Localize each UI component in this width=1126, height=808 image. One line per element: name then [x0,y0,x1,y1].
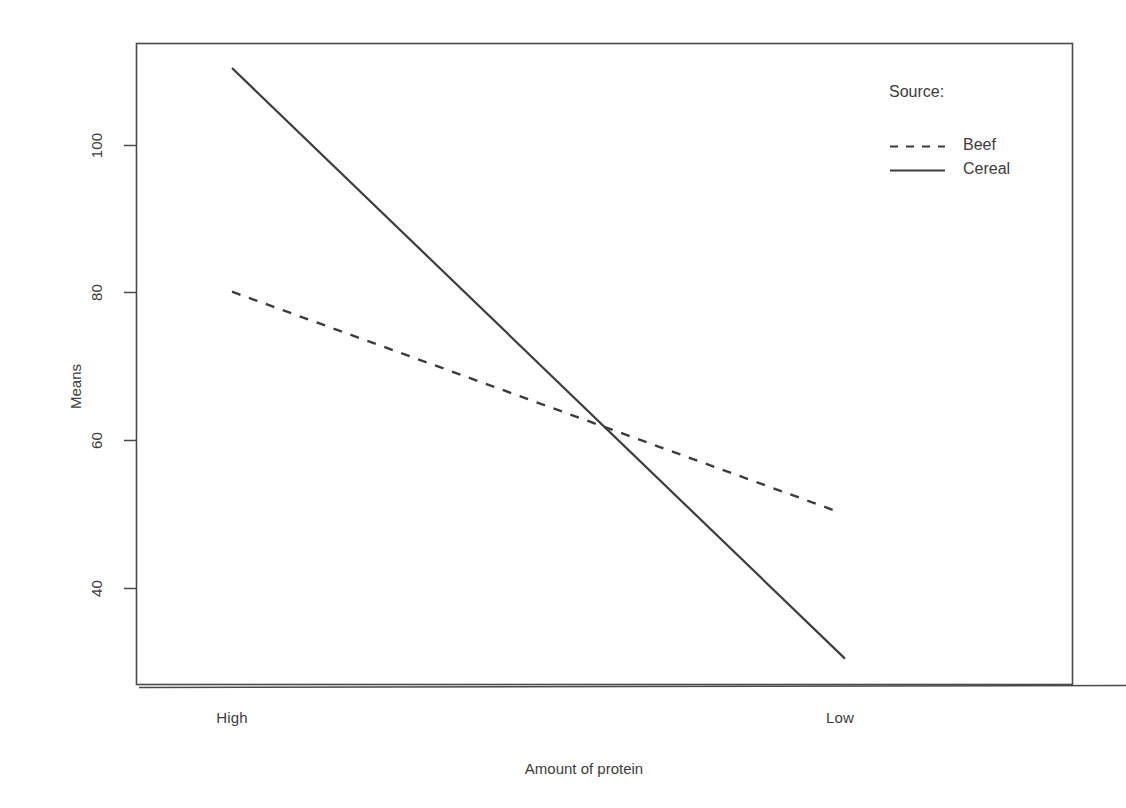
plot-canvas [0,0,1126,808]
series-line-cereal [232,68,845,659]
legend-title: Source: [889,83,944,101]
x-axis-title: Amount of protein [464,760,704,777]
x-tick-label-high: High [182,709,282,726]
legend-label-beef: Beef [963,136,996,154]
y-tick-label-40: 40 [88,569,105,609]
y-axis-title: Means [67,327,84,447]
interaction-plot-figure: 40 60 80 100 High Low Means Amount of pr… [0,0,1126,808]
x-tick-label-low: Low [790,709,890,726]
y-tick-label-60: 60 [88,421,105,461]
series-line-beef [232,292,838,512]
legend-label-cereal: Cereal [963,160,1010,178]
y-tick-label-100: 100 [88,121,105,171]
plot-frame [137,44,1073,685]
x-axis-line [139,686,1126,688]
y-axis-ticks [124,146,137,589]
y-tick-label-80: 80 [88,273,105,313]
